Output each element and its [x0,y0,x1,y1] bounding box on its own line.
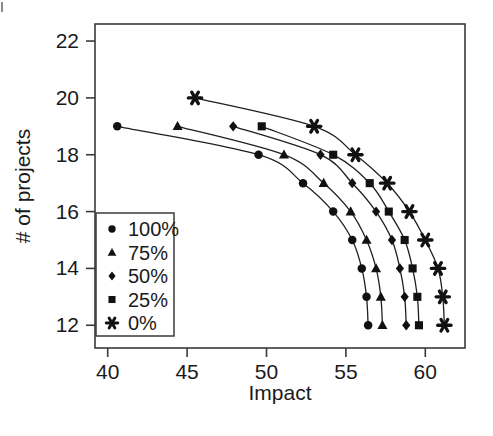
y-axis-title: # of projects [11,129,34,243]
x-tick-label: 50 [255,360,278,383]
marker-square [401,236,409,244]
marker-circle [358,264,366,272]
y-tick-label: 20 [56,86,79,109]
legend-label: 75% [128,242,168,264]
marker-diamond [402,320,410,330]
legend-label: 100% [128,218,179,240]
y-tick-label: 14 [56,256,80,279]
y-tick-label: 12 [56,313,79,336]
marker-circle [254,151,262,159]
x-tick-label: 55 [334,360,357,383]
y-axis-tick-labels: 121416182022 [56,29,80,336]
marker-square [329,151,337,159]
marker-square [108,296,115,303]
x-axis-ticks [108,348,426,357]
marker-diamond [401,292,409,302]
marker-asterisk [188,92,201,104]
marker-square [415,321,423,329]
marker-asterisk [403,206,416,218]
y-axis-ticks [86,41,95,325]
marker-circle [348,236,356,244]
marker-asterisk [431,263,444,275]
marker-square [385,208,393,216]
marker-triangle [362,235,372,244]
legend-label: 0% [128,312,157,334]
y-tick-label: 18 [56,143,79,166]
y-tick-label: 16 [56,200,79,223]
x-axis-title: Impact [248,381,311,404]
marker-diamond [316,150,324,160]
figure-container: 4045505560 121416182022 Impact # of proj… [0,0,493,436]
marker-triangle [376,292,386,301]
scatter-line-chart: 4045505560 121416182022 Impact # of proj… [0,0,493,436]
marker-triangle [371,263,381,272]
marker-diamond [388,235,396,245]
x-tick-label: 45 [175,360,198,383]
marker-circle [113,122,121,130]
x-tick-label: 60 [414,360,437,383]
marker-circle [329,207,337,215]
marker-circle [362,293,370,301]
marker-triangle [173,121,183,130]
marker-square [366,179,374,187]
marker-asterisk [419,234,432,246]
marker-circle [299,179,307,187]
marker-diamond [229,121,237,131]
x-tick-label: 40 [96,360,119,383]
marker-asterisk [307,121,320,133]
chart-legend: 100%75%50%25%0% [96,213,179,336]
legend-label: 50% [128,265,168,287]
marker-circle [108,225,115,232]
marker-triangle [377,320,387,329]
marker-square [413,293,421,301]
y-tick-label: 22 [56,29,79,52]
legend-label: 25% [128,289,168,311]
series-0pct [188,92,451,331]
x-axis-tick-labels: 4045505560 [96,360,437,383]
marker-circle [364,321,372,329]
marker-square [409,264,417,272]
marker-square [258,122,266,130]
marker-diamond [396,263,404,273]
